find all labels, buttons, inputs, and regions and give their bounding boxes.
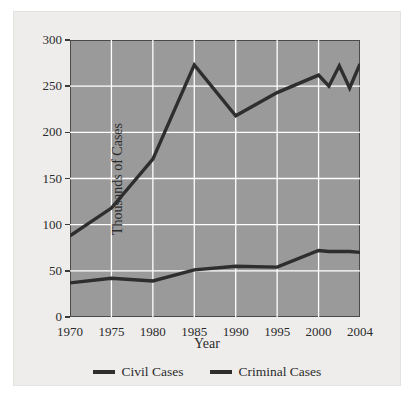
- y-tick-label: 150: [26, 171, 62, 187]
- plot-wrapper: 050100150200250300 197019751980198519901…: [70, 40, 360, 317]
- legend-swatch-icon: [210, 370, 232, 374]
- legend-label-civil-cases: Civil Cases: [122, 364, 184, 380]
- legend-label-criminal-cases: Criminal Cases: [239, 364, 322, 380]
- y-tick-mark: [65, 85, 70, 86]
- y-tick-mark: [65, 270, 70, 271]
- legend-swatch-icon: [93, 370, 115, 374]
- y-tick-mark: [65, 178, 70, 179]
- y-tick-mark: [65, 316, 70, 317]
- x-axis-title: Year: [14, 336, 400, 352]
- y-axis-title: Thousands of Cases: [110, 123, 126, 235]
- y-tick-mark: [65, 132, 70, 133]
- chart-legend: Civil Cases Criminal Cases: [14, 364, 400, 380]
- chart-figure: 050100150200250300 197019751980198519901…: [14, 12, 400, 385]
- y-tick-mark: [65, 39, 70, 40]
- legend-item-civil-cases: Civil Cases: [93, 364, 184, 380]
- y-tick-label: 0: [26, 309, 62, 325]
- y-tick-label: 250: [26, 78, 62, 94]
- y-tick-label: 100: [26, 217, 62, 233]
- legend-item-criminal-cases: Criminal Cases: [210, 364, 322, 380]
- y-tick-label: 200: [26, 124, 62, 140]
- y-tick-mark: [65, 224, 70, 225]
- y-tick-label: 300: [26, 32, 62, 48]
- y-tick-label: 50: [26, 263, 62, 279]
